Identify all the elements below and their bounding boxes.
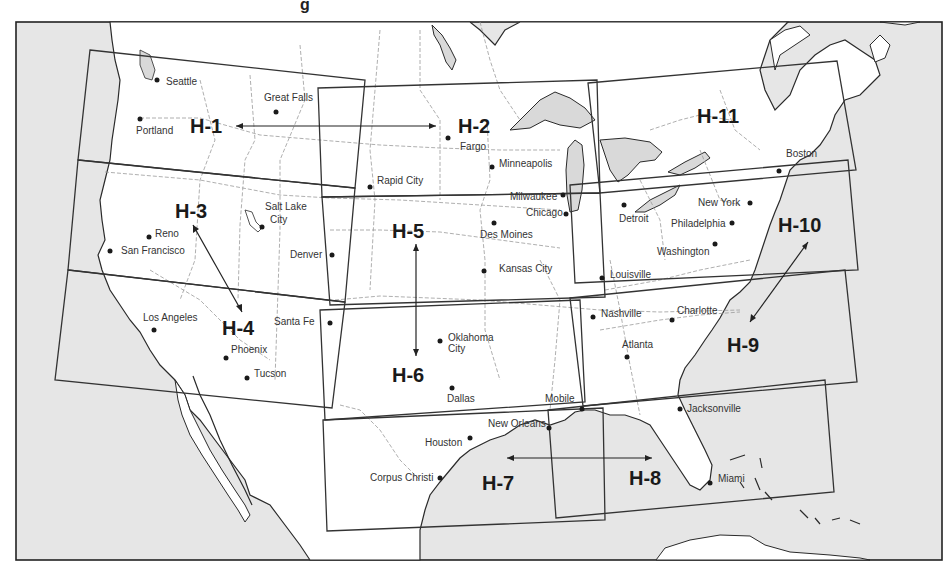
city-dot-santa-fe xyxy=(328,321,333,326)
city-label-salt-lake: Salt Lake xyxy=(265,201,307,212)
city-label-atlanta: Atlanta xyxy=(622,339,654,350)
city-label-reno: Reno xyxy=(155,228,179,239)
city-dot-detroit xyxy=(622,203,627,208)
city-label-seattle: Seattle xyxy=(166,76,198,87)
chart-label-h1: H-1 xyxy=(190,115,222,137)
city-dot-mobile xyxy=(580,407,585,412)
city-dot-new-orleans xyxy=(547,426,552,431)
city-dot-reno xyxy=(147,235,152,240)
city-dot-kansas-city xyxy=(482,269,487,274)
city-dot-atlanta xyxy=(625,355,630,360)
city-label-kansas-city: Kansas City xyxy=(499,263,552,274)
city-label-fargo: Fargo xyxy=(460,141,487,152)
chart-label-h10: H-10 xyxy=(778,214,821,236)
chart-label-h9: H-9 xyxy=(727,334,759,356)
city-dot-oklahoma-city xyxy=(438,339,443,344)
chart-coverage-map: g xyxy=(0,0,952,568)
city-dot-denver xyxy=(330,253,335,258)
city-label-oklahoma: Oklahoma xyxy=(448,332,494,343)
city-label-dallas: Dallas xyxy=(447,393,475,404)
city-label-santa-fe: Santa Fe xyxy=(274,316,315,327)
city-dot-jacksonville xyxy=(678,407,683,412)
city-label-chicago: Chicago xyxy=(526,207,563,218)
city-label-milwaukee: Milwaukee xyxy=(510,191,558,202)
city-label-los-angeles: Los Angeles xyxy=(143,312,198,323)
city-dot-houston xyxy=(468,436,473,441)
chart-label-h7: H-7 xyxy=(482,472,514,494)
city-dot-rapid-city xyxy=(368,185,373,190)
city-label-nashville: Nashville xyxy=(601,308,642,319)
city-dot-dallas xyxy=(450,386,455,391)
chart-label-h8: H-8 xyxy=(629,467,661,489)
city-label-detroit: Detroit xyxy=(619,213,649,224)
city-dot-fargo xyxy=(446,136,451,141)
city-label-louisville: Louisville xyxy=(610,269,652,280)
chart-label-h5: H-5 xyxy=(392,220,424,242)
city-dot-miami xyxy=(708,481,713,486)
city-dot-seattle xyxy=(155,78,160,83)
city-label-washington: Washington xyxy=(657,246,709,257)
city-label-salt-lake-city: City xyxy=(270,214,287,225)
city-dot-great-falls xyxy=(274,110,279,115)
city-label-great-falls: Great Falls xyxy=(264,92,313,103)
city-label-charlotte: Charlotte xyxy=(677,305,718,316)
city-label-miami: Miami xyxy=(718,473,745,484)
chart-label-h3: H-3 xyxy=(175,200,207,222)
city-label-jacksonville: Jacksonville xyxy=(687,403,741,414)
city-label-new-york: New York xyxy=(698,197,741,208)
city-dot-portland xyxy=(138,117,143,122)
city-label-des-moines: Des Moines xyxy=(480,229,533,240)
city-dot-washington xyxy=(713,242,718,247)
city-dot-salt-lake-city xyxy=(260,225,265,230)
city-label-san-francisco: San Francisco xyxy=(121,245,185,256)
chart-label-h2: H-2 xyxy=(458,115,490,137)
city-dot-los-angeles xyxy=(152,328,157,333)
city-label-portland: Portland xyxy=(136,125,173,136)
city-label-mobile: Mobile xyxy=(545,393,575,404)
chart-label-h6: H-6 xyxy=(392,364,424,386)
title-fragment: g xyxy=(300,0,310,13)
city-dot-san-francisco xyxy=(108,249,113,254)
city-dot-new-york xyxy=(748,201,753,206)
city-label-tucson: Tucson xyxy=(254,368,286,379)
city-label-corpus-christi: Corpus Christi xyxy=(370,472,433,483)
city-dot-charlotte xyxy=(670,318,675,323)
city-label-denver: Denver xyxy=(290,249,323,260)
chart-label-h4: H-4 xyxy=(222,317,255,339)
city-dot-minneapolis xyxy=(490,165,495,170)
city-dot-corpus-christi xyxy=(438,476,443,481)
city-dot-tucson xyxy=(245,376,250,381)
city-label-boston: Boston xyxy=(786,148,817,159)
city-dot-milwaukee xyxy=(561,193,566,198)
city-label-minneapolis: Minneapolis xyxy=(499,158,552,169)
city-label-phoenix: Phoenix xyxy=(231,344,267,355)
city-label-philadelphia: Philadelphia xyxy=(671,218,726,229)
city-label-rapid-city: Rapid City xyxy=(377,175,423,186)
city-label-oklahoma-city: City xyxy=(448,343,465,354)
map-svg: g xyxy=(0,0,952,568)
city-dot-chicago xyxy=(564,212,569,217)
city-dot-nashville xyxy=(591,315,596,320)
city-dot-boston xyxy=(777,169,782,174)
city-dot-philadelphia xyxy=(730,221,735,226)
city-dot-phoenix xyxy=(224,356,229,361)
city-dot-louisville xyxy=(600,276,605,281)
city-label-new-orleans: New Orleans xyxy=(488,418,546,429)
chart-label-h11: H-11 xyxy=(697,105,739,127)
city-dot-des-moines xyxy=(492,221,497,226)
city-label-houston: Houston xyxy=(425,437,462,448)
